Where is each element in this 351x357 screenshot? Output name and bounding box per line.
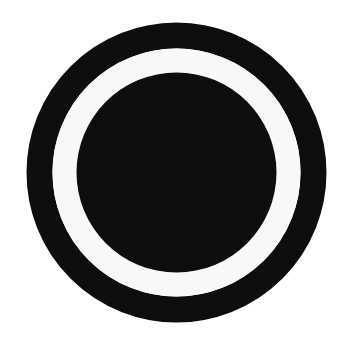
inner-disc [77, 73, 277, 273]
image-canvas [0, 0, 351, 357]
concentric-ring-figure [0, 0, 351, 357]
